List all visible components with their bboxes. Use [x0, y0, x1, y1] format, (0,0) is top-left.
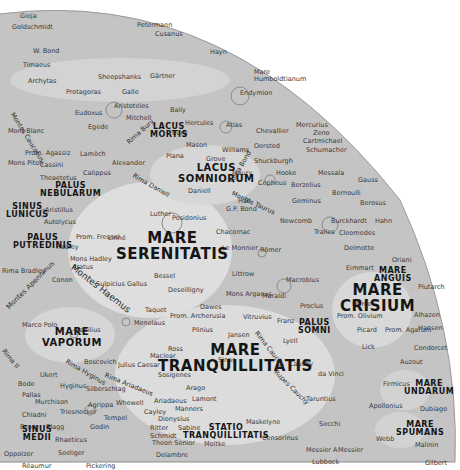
crater-label: W. Bond	[33, 48, 60, 55]
mare-crisium-label: MARECRISIUM	[340, 283, 415, 315]
crater-label: Réaumur	[22, 463, 51, 470]
crater-label: Dubiago	[420, 406, 447, 413]
label-line: MORTIS	[150, 131, 188, 139]
label-line: SOMNIORUM	[178, 174, 255, 185]
crater-label: Burckhardt	[331, 218, 367, 225]
crater-label: Newcomb	[280, 218, 312, 225]
palus-nebularum-label: PALUSNEBULARUM	[40, 182, 101, 199]
crater-label: Conon	[52, 277, 73, 284]
crater-label: Rhaeticus	[55, 437, 87, 444]
crater-label: Delmotte	[344, 245, 374, 252]
crater-label: Alexander	[112, 160, 145, 167]
crater-label: Hansen	[418, 325, 443, 332]
crater-label: Bode	[18, 381, 35, 388]
crater-label: Goldschmidt	[12, 24, 53, 31]
crater-label: Seeliger	[58, 450, 85, 457]
crater-label: Lamèch	[80, 151, 106, 158]
statio-tranquillitatis-label: STATIOTRANQUILLITATIS	[183, 424, 269, 441]
crater-label: Messier	[338, 447, 363, 454]
crater-label: Deseilligny	[168, 287, 204, 294]
crater-label: Aristoteles	[114, 103, 149, 110]
label-line: LUNICUS	[6, 211, 49, 219]
crater-label: Gilbert	[425, 460, 447, 467]
crater-label: Julius Caesar	[118, 362, 160, 369]
crater-label: Chevallier	[256, 128, 289, 135]
crater-label: Bessel	[154, 273, 175, 280]
crater-label: Ritter	[150, 425, 168, 432]
crater-label: Zeno	[313, 130, 330, 137]
label-line: SPUMANS	[396, 429, 444, 437]
crater-label: Picard	[357, 327, 377, 334]
crater-label: Oppolzer	[4, 451, 33, 458]
crater-label: Mons Argaeus	[226, 291, 272, 298]
crater-label: Sheepshanks	[98, 74, 141, 81]
crater-label: Dawes	[200, 304, 222, 311]
crater-label: Ukert	[40, 372, 58, 379]
crater-label: Auzout	[400, 359, 423, 366]
crater-label: Lamont	[192, 396, 217, 403]
crater-label: Calippus	[83, 170, 111, 177]
crater-label: Prom. Fresnel	[76, 234, 120, 241]
label-line: MARE	[42, 327, 102, 338]
mare-vaporum-label: MAREVAPORUM	[42, 327, 102, 348]
crater-label: Hooke	[276, 170, 296, 177]
crater-label: Whewell	[116, 400, 143, 407]
label-line: TRANQUILLITATIS	[183, 432, 269, 440]
crater-label: Cusanus	[155, 31, 183, 38]
crater-label: Littrow	[232, 271, 254, 278]
crater-label: Aristillus	[45, 207, 73, 214]
crater-label: Hyginus	[60, 383, 86, 390]
crater-label: Ariadaeus	[154, 398, 187, 405]
crater-label: Cartmichael	[303, 138, 342, 145]
crater-label: Mons Hadley	[70, 256, 112, 263]
crater-label: Messier A	[306, 447, 337, 454]
crater-label: Eimmart	[346, 265, 374, 272]
crater-label: Archytas	[28, 78, 56, 85]
mare-spumans-label: MARESPUMANS	[396, 421, 444, 438]
crater-label: Proclus	[300, 303, 323, 310]
crater-label: Murchison	[35, 399, 68, 406]
crater-label: Daniell	[188, 188, 211, 195]
crater-label: Schumacher	[306, 147, 347, 154]
crater-label: Messala	[318, 170, 344, 177]
crater-label: Geminus	[292, 198, 321, 205]
crater-label: Mercurius	[296, 122, 328, 129]
sinus-lunicus-label: SINUSLUNICUS	[6, 203, 49, 220]
crater-label: Silberschlag	[86, 386, 126, 393]
crater-label: Gioja	[20, 13, 37, 20]
crater-label: Oersted	[254, 143, 280, 150]
crater-label: Mason	[186, 142, 207, 149]
crater-label: Webb	[376, 436, 394, 443]
crater-label: Endymion	[240, 90, 272, 97]
mare-tranquillitatis-label: MARETRANQUILLITATIS	[158, 343, 313, 375]
crater-label: Galle	[122, 89, 139, 96]
crater-label: Condorcet	[414, 345, 447, 352]
crater-label: Plutarch	[418, 284, 445, 291]
crater-label: Gauss	[358, 177, 378, 184]
crater-label: Cleomedes	[339, 230, 375, 237]
crater-label: Tralles	[314, 229, 335, 236]
crater-label: Menelaus	[134, 320, 165, 327]
label-line: SOMNI	[298, 327, 331, 335]
crater-label: Egede	[88, 124, 108, 131]
crater-label: Delambre	[156, 452, 188, 459]
crater-label: Shuckburgh	[254, 158, 293, 165]
crater-label: Berzelius	[291, 182, 321, 189]
palus-somni-label: PALUSSOMNI	[298, 319, 331, 336]
crater-label: Autolycus	[44, 219, 76, 226]
label-line: Humboldtianum	[254, 76, 306, 83]
label-line: MEDII	[22, 434, 52, 442]
sinus-medii-label: SINUSMEDII	[22, 426, 52, 443]
crater-label: Cayley	[144, 409, 166, 416]
mare-anguis-label: MAREANGUIS	[374, 267, 412, 284]
label-line: VAPORUM	[42, 338, 102, 349]
lacus-mortis-label: LACUSMORTIS	[150, 123, 188, 140]
label-line: SERENITATIS	[116, 247, 229, 263]
crater-label: Posidonius	[172, 215, 206, 222]
crater-label: Römer	[260, 247, 281, 254]
crater-label: Chladni	[22, 412, 47, 419]
crater-label: Protagoras	[66, 89, 101, 96]
label-line: PUTREDINIS	[13, 242, 73, 250]
crater-label: Jansen	[228, 332, 250, 339]
label-line: UNDARUM	[404, 388, 454, 396]
